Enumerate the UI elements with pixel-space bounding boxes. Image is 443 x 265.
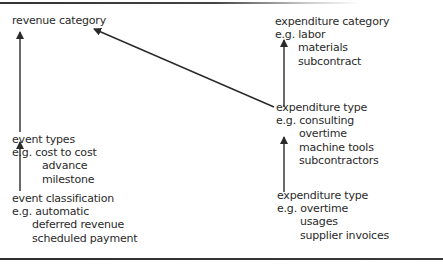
- node-item: materials: [275, 41, 389, 54]
- node-item: scheduled payment: [12, 232, 137, 245]
- node-title: expenditure category: [275, 15, 389, 28]
- node-example: e.g. consulting: [276, 114, 379, 127]
- node-example: e.g. cost to cost: [12, 146, 97, 159]
- node-item: deferred revenue: [12, 218, 137, 231]
- node-item: subcontract: [275, 55, 389, 68]
- node-title: event classification: [12, 192, 137, 205]
- node-title: expenditure type: [276, 101, 379, 114]
- node-item: machine tools: [276, 141, 379, 154]
- arrow-expenditure-type-to-revenue-category: [94, 29, 274, 107]
- node-event-types: event types e.g. cost to cost advance mi…: [12, 133, 97, 186]
- node-title: event types: [12, 133, 97, 146]
- node-item: advance: [12, 159, 97, 172]
- node-item: milestone: [12, 173, 97, 186]
- node-example: e.g. overtime: [277, 202, 389, 215]
- node-item: subcontractors: [276, 154, 379, 167]
- node-event-classification: event classification e.g. automatic defe…: [12, 192, 137, 245]
- node-item: overtime: [276, 127, 379, 140]
- node-item: supplier invoices: [277, 229, 389, 242]
- node-expenditure-category: expenditure category e.g. labor material…: [275, 15, 389, 68]
- node-revenue-category: revenue category: [12, 14, 106, 27]
- node-expenditure-type-2: expenditure type e.g. overtime usages su…: [277, 189, 389, 242]
- node-expenditure-type-1: expenditure type e.g. consulting overtim…: [276, 101, 379, 167]
- node-title: expenditure type: [277, 189, 389, 202]
- node-item: usages: [277, 215, 389, 228]
- node-example: e.g. labor: [275, 28, 389, 41]
- node-title: revenue category: [12, 14, 106, 27]
- node-example: e.g. automatic: [12, 205, 137, 218]
